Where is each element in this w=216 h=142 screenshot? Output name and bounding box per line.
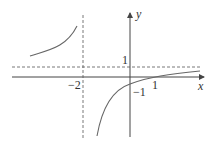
tick-label-x-neg2: −2 — [68, 78, 81, 92]
tick-label-y-neg1: −1 — [133, 85, 146, 99]
curve-left-branch — [30, 26, 77, 56]
tick-label-y-1: 1 — [122, 53, 128, 67]
x-axis-label: x — [197, 79, 204, 93]
graph-canvas: y x 1 −2 1 −1 — [0, 0, 216, 142]
y-axis-label: y — [135, 7, 142, 21]
function-graph: y x 1 −2 1 −1 — [0, 0, 216, 142]
tick-label-x-1: 1 — [152, 78, 158, 92]
curve-right-branch — [97, 71, 200, 136]
